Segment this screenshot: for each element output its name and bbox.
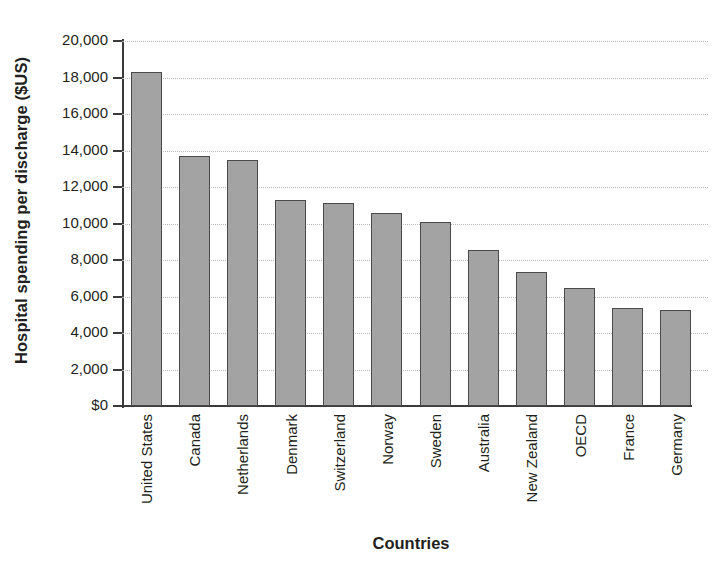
y-tick-mark [113,186,122,188]
bar-slot [459,41,507,406]
bar-slot [411,41,459,406]
bar-united-states[interactable] [131,72,162,406]
bar-slot [315,41,363,406]
y-tick-label: 2,000 [70,360,108,377]
y-tick-mark [113,369,122,371]
y-tick-mark [113,77,122,79]
x-label-slot: Switzerland [315,410,363,528]
x-tick-label-new-zealand: New Zealand [524,414,539,502]
bar-germany[interactable] [660,310,691,406]
y-tick-label: 12,000 [62,177,108,194]
bar-canada[interactable] [179,156,210,406]
y-tick-label: 10,000 [62,214,108,231]
x-label-slot: Denmark [267,410,315,528]
bar-chart: Hospital spending per discharge ($US) 20… [0,0,717,580]
y-tick-label: 6,000 [70,287,108,304]
y-tick-label: 8,000 [70,250,108,267]
x-label-slot: United States [122,410,170,528]
x-axis-tick-labels: United StatesCanadaNetherlandsDenmarkSwi… [122,410,700,528]
x-tick-label-france: France [620,414,635,461]
x-label-slot: Canada [170,410,218,528]
plot-area: 20,00018,00016,00014,00012,00010,0008,00… [122,41,700,406]
x-label-slot: France [604,410,652,528]
y-tick-mark [113,332,122,334]
y-axis-title-text: Hospital spending per discharge ($US) [13,56,32,363]
bar-new-zealand[interactable] [516,272,547,406]
bar-oecd[interactable] [564,288,595,406]
y-tick-label: 16,000 [62,104,108,121]
x-tick-label-netherlands: Netherlands [235,414,250,495]
bar-slot [122,41,170,406]
y-tick-label: 18,000 [62,68,108,85]
x-axis-title: Countries [122,534,700,553]
bar-denmark[interactable] [275,200,306,406]
x-tick-label-norway: Norway [379,414,394,465]
bar-norway[interactable] [371,213,402,406]
x-label-slot: OECD [556,410,604,528]
x-label-slot: New Zealand [507,410,555,528]
bar-netherlands[interactable] [227,160,258,406]
y-axis-title: Hospital spending per discharge ($US) [0,0,44,420]
bar-slot [507,41,555,406]
x-tick-label-australia: Australia [476,414,491,472]
bar-slot [604,41,652,406]
x-tick-label-sweden: Sweden [428,414,443,468]
x-tick-label-switzerland: Switzerland [331,414,346,492]
x-tick-label-germany: Germany [668,414,683,476]
bar-slot [218,41,266,406]
bar-australia[interactable] [468,250,499,406]
x-tick-label-united-states: United States [139,414,154,504]
bar-sweden[interactable] [420,222,451,406]
y-tick-mark [113,259,122,261]
bar-france[interactable] [612,308,643,406]
y-tick-mark [113,296,122,298]
x-label-slot: Norway [363,410,411,528]
y-tick-mark [113,40,122,42]
y-tick-mark [113,150,122,152]
x-label-slot: Germany [652,410,700,528]
bar-slot [267,41,315,406]
x-label-slot: Netherlands [218,410,266,528]
bar-series [122,41,700,406]
x-tick-label-denmark: Denmark [283,414,298,475]
y-tick-mark [113,223,122,225]
y-tick-mark [113,405,122,407]
x-label-slot: Australia [459,410,507,528]
y-tick-label: 14,000 [62,141,108,158]
bar-slot [363,41,411,406]
y-tick-label: 4,000 [70,323,108,340]
x-tick-label-canada: Canada [187,414,202,467]
bar-switzerland[interactable] [323,203,354,406]
bar-slot [556,41,604,406]
x-label-slot: Sweden [411,410,459,528]
bar-slot [652,41,700,406]
y-tick-mark [113,113,122,115]
bar-slot [170,41,218,406]
y-tick-label: 20,000 [62,31,108,48]
x-tick-label-oecd: OECD [572,414,587,457]
y-tick-label: $0 [91,396,108,413]
